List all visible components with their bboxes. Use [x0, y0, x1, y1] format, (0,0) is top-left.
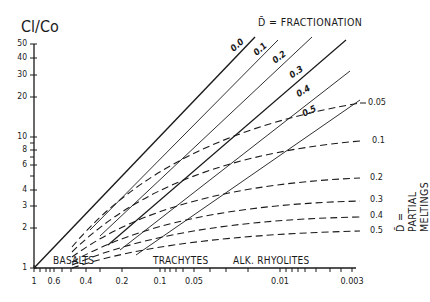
fractionation-line-0.4 [120, 71, 350, 250]
partial-melting-legend-title: D̄ = PARTIAL MELTINGS [394, 182, 430, 232]
partial-melting-label: 0.1 [372, 135, 385, 145]
y-tick-label: 2 [5, 222, 27, 232]
x-tick-label: 0.01 [271, 276, 289, 286]
partial-melting-curve-0.2 [72, 178, 360, 257]
x-tick-label: 0.05 [185, 276, 203, 286]
x-tick-label: 0.6 [48, 276, 61, 286]
x-tick-label: 0.1 [154, 276, 167, 286]
partial-melting-label: 0.4 [370, 210, 383, 220]
y-axis-title: Cl/Co [21, 17, 59, 36]
x-tick-label: 0.003 [340, 276, 363, 286]
y-tick-label: 30 [5, 69, 27, 79]
fractionation-line-0.1 [90, 40, 278, 230]
y-tick-label: 40 [5, 52, 27, 62]
fractionation-line-0.3 [108, 40, 346, 245]
partial-melting-curves [72, 103, 360, 268]
partial-melting-label: 0.5 [370, 225, 383, 235]
y-tick-label: 1 [5, 262, 27, 272]
fractionation-legend-title: D̄ = FRACTIONATION [258, 16, 362, 28]
y-tick-label: 8 [5, 144, 27, 154]
rock-label-basalts: BASALTS [53, 255, 94, 266]
y-tick-label: 6 [5, 159, 27, 169]
x-tick-label: 0.4 [80, 276, 93, 286]
partial-melting-label: 0.2 [370, 172, 383, 182]
partial-melting-curve-0.1 [72, 141, 360, 252]
partial-melting-label: 0.05 [368, 97, 386, 107]
x-tick-label: 0.2 [116, 276, 129, 286]
partial-melting-label: 0.3 [370, 194, 383, 204]
y-tick-label: 10 [5, 131, 27, 141]
fractionation-line-0.0 [34, 37, 255, 268]
rock-label-alk-rhyolites: ALK. RHYOLITES [233, 255, 310, 266]
rock-label-trachytes: TRACHYTES [153, 255, 208, 266]
y-tick-label: 4 [5, 184, 27, 194]
y-tick-label: 20 [5, 91, 27, 101]
x-tick-label: 1 [31, 276, 36, 286]
y-tick-label: 50 [5, 38, 27, 48]
y-tick-label: 3 [5, 200, 27, 210]
